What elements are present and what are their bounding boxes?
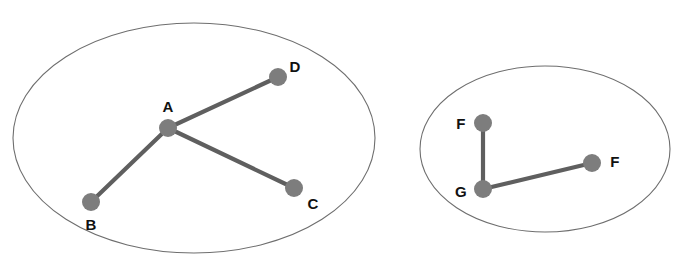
graph-node-B[interactable] bbox=[82, 193, 100, 211]
node-label-B: B bbox=[85, 217, 96, 232]
node-label-F2: F bbox=[610, 154, 619, 169]
graph-node-F2[interactable] bbox=[583, 154, 601, 172]
node-label-F1: F bbox=[456, 116, 465, 131]
graph-node-C[interactable] bbox=[285, 179, 303, 197]
group-boundaries-layer bbox=[13, 23, 670, 253]
node-label-G: G bbox=[455, 184, 467, 199]
graph-node-D[interactable] bbox=[269, 68, 287, 86]
graph-node-F1[interactable] bbox=[474, 114, 492, 132]
group-boundary-right-component bbox=[420, 66, 670, 232]
graph-node-A[interactable] bbox=[159, 119, 177, 137]
node-label-A: A bbox=[162, 99, 173, 114]
node-label-C: C bbox=[307, 196, 318, 211]
diagram-svg bbox=[0, 0, 682, 267]
diagram-canvas: ABCDFGF bbox=[0, 0, 682, 267]
graph-node-G[interactable] bbox=[474, 180, 492, 198]
node-label-D: D bbox=[289, 59, 300, 74]
group-boundary-left-component bbox=[13, 23, 375, 253]
